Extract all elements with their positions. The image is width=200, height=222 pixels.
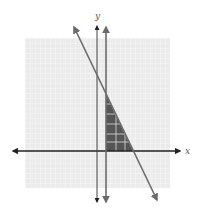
graph-figure: y x: [0, 0, 200, 222]
y-axis-label: y: [94, 11, 101, 21]
coordinate-plane: y x: [0, 0, 200, 222]
x-axis-label: x: [185, 146, 190, 156]
